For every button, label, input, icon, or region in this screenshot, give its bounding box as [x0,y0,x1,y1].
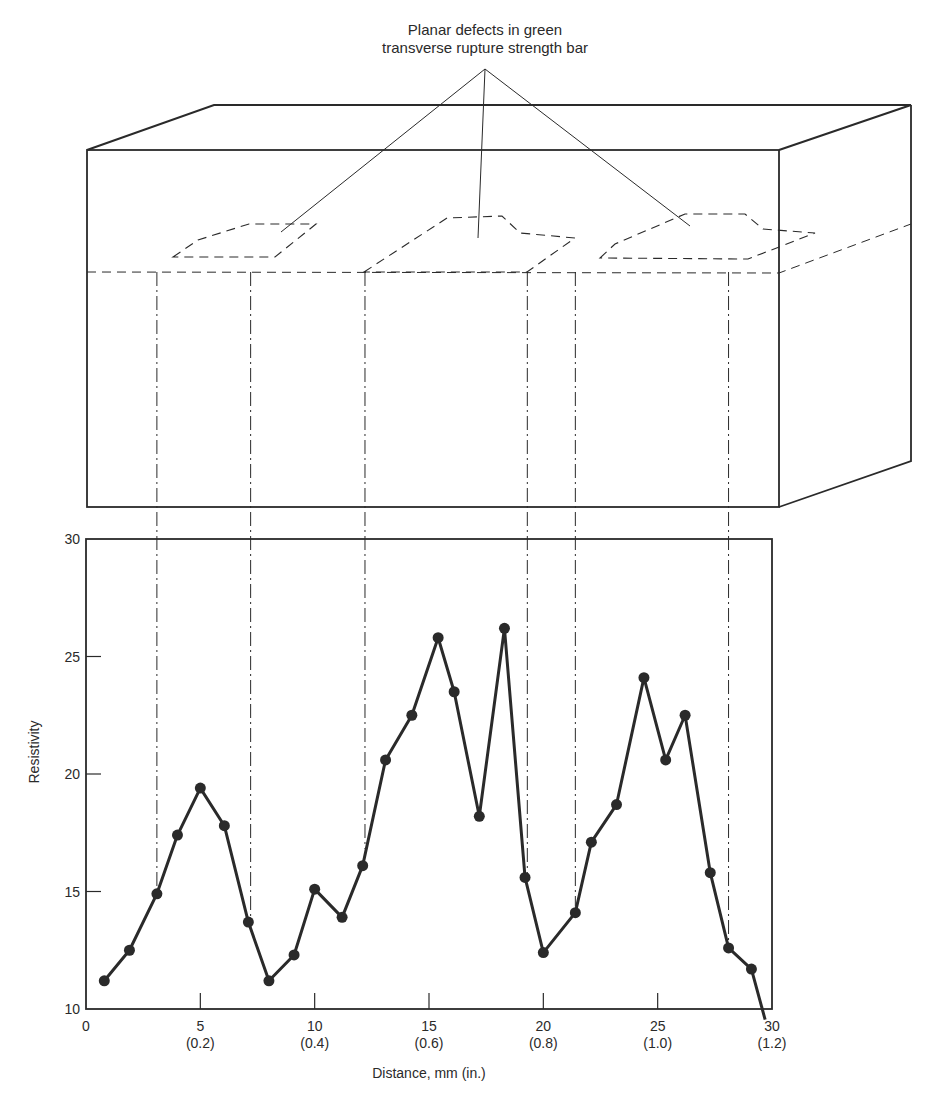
x-tick-sublabel: (0.6) [415,1035,444,1051]
rupture-strength-bar-diagram [87,105,911,507]
data-point [474,811,485,822]
defect-plane-line [87,224,911,273]
x-axis-ticks: 05(0.2)10(0.4)15(0.6)20(0.8)25(1.0)30(1.… [82,993,786,1051]
data-point [99,975,110,986]
x-axis-title: Distance, mm (in.) [372,1065,486,1081]
x-tick-sublabel: (0.2) [186,1035,215,1051]
data-point [680,710,691,721]
y-tick-label: 15 [64,884,80,900]
annotation-pointer-lines [281,69,690,238]
defect-2-outline [364,216,575,272]
defect-projection-lines [157,272,729,942]
y-axis-ticks: 1015202530 [64,531,101,1017]
data-point [660,754,671,765]
data-point [263,975,274,986]
x-tick-label: 20 [536,1018,552,1034]
annotation-line-2: transverse rupture strength bar [382,39,588,56]
y-tick-label: 20 [64,766,80,782]
data-point [570,907,581,918]
bar-front-face [87,150,779,507]
x-tick-label: 0 [82,1018,90,1034]
y-tick-label: 25 [64,649,80,665]
defect-1-outline [173,224,316,257]
y-tick-label: 30 [64,531,80,547]
data-point [746,964,757,975]
data-point [406,710,417,721]
y-tick-label: 10 [64,1001,80,1017]
resistivity-line [104,628,765,1019]
data-point [499,623,510,634]
data-point [124,945,135,956]
data-point [449,686,460,697]
y-axis-title: Resistivity [26,720,42,783]
data-point [638,672,649,683]
plot-frame [86,539,772,1009]
bar-top-face [87,105,911,150]
data-point [538,947,549,958]
x-tick-label: 10 [307,1018,323,1034]
data-point [172,830,183,841]
data-point [309,884,320,895]
x-tick-label: 30 [764,1018,780,1034]
pointer-line [485,69,690,226]
data-point [586,837,597,848]
data-point [433,632,444,643]
data-point [195,783,206,794]
defect-3-outline [600,214,815,259]
annotation-line-1: Planar defects in green [408,21,562,38]
pointer-line [478,69,485,238]
x-tick-label: 25 [650,1018,666,1034]
data-point-markers [99,623,757,987]
planar-defects [173,214,815,272]
data-point [705,867,716,878]
data-point [151,888,162,899]
x-tick-label: 5 [196,1018,204,1034]
resistivity-chart: 1015202530 05(0.2)10(0.4)15(0.6)20(0.8)2… [26,531,786,1081]
figure-canvas: Planar defects in green transverse ruptu… [0,0,936,1112]
data-point [380,754,391,765]
data-point [520,872,531,883]
x-tick-label: 15 [421,1018,437,1034]
data-point [723,942,734,953]
x-tick-sublabel: (1.0) [643,1035,672,1051]
data-point [611,799,622,810]
x-tick-sublabel: (1.2) [758,1035,787,1051]
data-point [357,860,368,871]
x-tick-sublabel: (0.8) [529,1035,558,1051]
data-point [337,912,348,923]
bar-side-face [779,105,911,507]
data-point [289,949,300,960]
data-point [219,820,230,831]
data-point [243,917,254,928]
x-tick-sublabel: (0.4) [300,1035,329,1051]
